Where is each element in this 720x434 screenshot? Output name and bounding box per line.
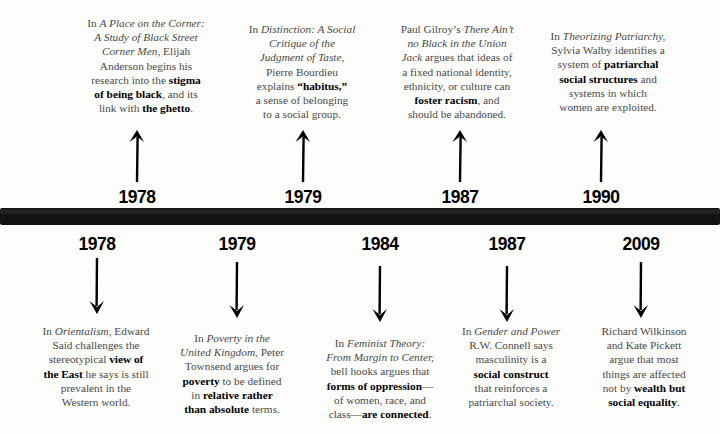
timeline-bar <box>0 208 720 225</box>
year-label-top-3: 1987 <box>428 186 492 208</box>
arrow-up-icon-1 <box>126 127 148 182</box>
arrow-down-icon-1 <box>86 258 108 316</box>
arrow-up-icon-3 <box>449 127 471 182</box>
arrow-down-icon-5 <box>630 262 652 320</box>
year-label-bottom-5: 2009 <box>609 233 673 255</box>
note-top-3: Paul Gilroy’s There Ain’tno Black in the… <box>372 22 542 121</box>
year-label-bottom-2: 1979 <box>205 233 269 255</box>
note-bottom-2: In Poverty in theUnited Kingdom, PeterTo… <box>158 331 306 416</box>
timeline-infographic: In A Place on the Corner:A Study of Blac… <box>0 0 720 434</box>
arrow-down-icon-3 <box>369 266 391 324</box>
note-bottom-5: Richard Wilkinsonand Kate Pickettargue t… <box>578 324 710 409</box>
year-label-bottom-3: 1984 <box>348 233 412 255</box>
note-top-2: In Distinction: A SocialCritique of theJ… <box>226 22 378 121</box>
year-label-bottom-1: 1978 <box>65 233 129 255</box>
note-top-1: In A Place on the Corner:A Study of Blac… <box>56 16 236 115</box>
year-label-top-2: 1979 <box>271 186 335 208</box>
year-label-top-1: 1978 <box>105 186 169 208</box>
note-bottom-1: In Orientalism, EdwardSaid challenges th… <box>10 324 182 409</box>
year-label-bottom-4: 1987 <box>475 233 539 255</box>
arrow-down-icon-4 <box>496 266 518 324</box>
arrow-down-icon-2 <box>226 262 248 320</box>
note-top-4: In Theorizing Patriarchy,Sylvia Walby id… <box>518 29 698 114</box>
year-label-top-4: 1990 <box>569 186 633 208</box>
arrow-up-icon-4 <box>590 127 612 182</box>
note-bottom-3: In Feminist Theory:From Margin to Center… <box>305 336 455 421</box>
arrow-up-icon-2 <box>292 127 314 182</box>
note-bottom-4: In Gender and PowerR.W. Connell saysmasc… <box>444 324 578 409</box>
